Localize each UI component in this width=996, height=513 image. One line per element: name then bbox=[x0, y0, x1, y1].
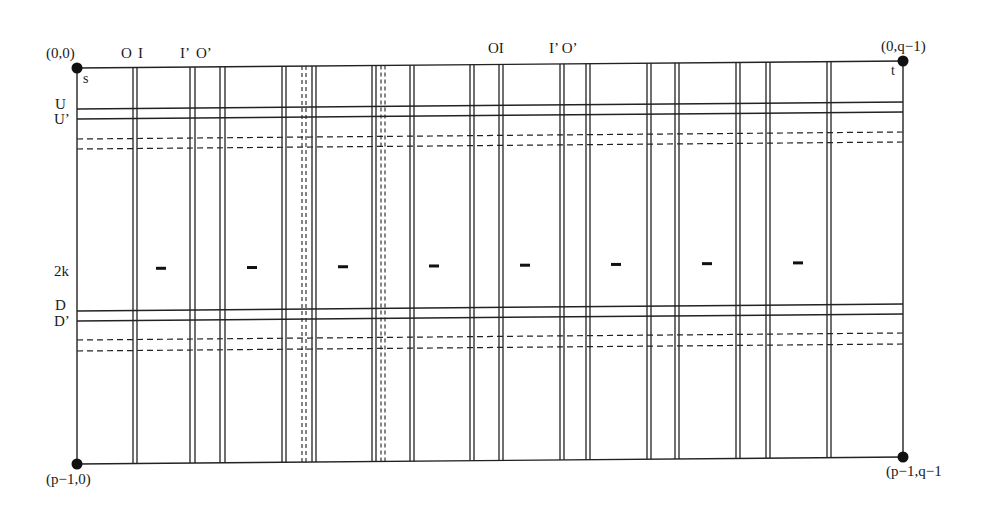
column-label-o: O bbox=[121, 46, 132, 61]
minus-mark-icon bbox=[793, 261, 803, 264]
row-label-2k: 2k bbox=[54, 264, 69, 279]
corner-label-bottom-left: (p−1,0) bbox=[46, 472, 91, 487]
column-label-o-prime: O’ bbox=[196, 46, 212, 61]
row-label-u: U bbox=[55, 97, 66, 112]
minus-mark-icon bbox=[247, 266, 257, 269]
dash-marks bbox=[156, 261, 803, 269]
minus-mark-icon bbox=[156, 267, 166, 270]
horizontal-solid-line bbox=[77, 314, 903, 321]
horizontal-solid-line bbox=[77, 102, 903, 109]
grid-lines bbox=[77, 61, 903, 464]
horizontal-dashed-line bbox=[77, 344, 903, 351]
border-top-line bbox=[77, 61, 903, 68]
horizontal-dashed-line bbox=[77, 142, 903, 149]
border-bottom-line bbox=[77, 457, 903, 464]
horizontal-dashed-line bbox=[77, 132, 903, 139]
corner-label-top-right: (0,q−1) bbox=[881, 39, 926, 54]
target-label-t: t bbox=[891, 64, 895, 78]
minus-mark-icon bbox=[429, 264, 439, 267]
column-label-i-prime-o-prime: I’ O’ bbox=[549, 41, 577, 56]
source-label-s: s bbox=[83, 72, 88, 86]
corner-node-dot bbox=[72, 459, 83, 470]
minus-mark-icon bbox=[338, 265, 348, 268]
grid-diagram bbox=[0, 0, 996, 513]
corner-label-bottom-right: (p−1,q−1 bbox=[886, 464, 942, 479]
horizontal-dashed-line bbox=[77, 333, 903, 340]
minus-mark-icon bbox=[702, 262, 712, 265]
corner-node-dot bbox=[72, 63, 83, 74]
corner-node-dot bbox=[898, 56, 909, 67]
minus-mark-icon bbox=[611, 263, 621, 266]
horizontal-solid-line bbox=[77, 112, 903, 119]
minus-mark-icon bbox=[520, 264, 530, 267]
column-label-i: I bbox=[138, 46, 143, 61]
corner-label-top-left: (0,0) bbox=[46, 46, 75, 61]
corner-node-dot bbox=[898, 452, 909, 463]
row-label-d: D bbox=[55, 298, 66, 313]
row-label-u-prime: U’ bbox=[54, 112, 70, 127]
row-label-d-prime: D’ bbox=[54, 314, 70, 329]
column-label-oi: OI bbox=[488, 41, 504, 56]
horizontal-solid-line bbox=[77, 304, 903, 311]
column-label-i-prime: I’ bbox=[180, 46, 190, 61]
